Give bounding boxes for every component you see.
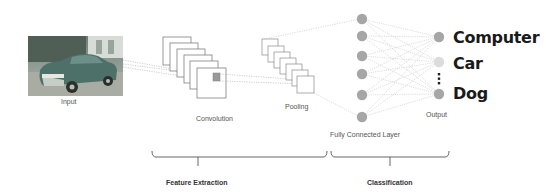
- fc-node: [357, 31, 367, 41]
- fc-node: [357, 90, 367, 100]
- pooling-label: Pooling: [285, 103, 308, 110]
- output-node-dog: [434, 89, 444, 99]
- feature-extraction-label: Feature Extraction: [166, 179, 227, 186]
- class-label-car: Car: [453, 54, 483, 73]
- fc-node: [357, 14, 367, 24]
- output-nodes: [434, 32, 444, 99]
- convolution-label: Convolution: [196, 115, 233, 122]
- input-label: Input: [61, 98, 77, 105]
- output-label: Output: [426, 111, 447, 118]
- output-node-computer: [434, 32, 444, 42]
- input-image: [28, 36, 123, 96]
- convolution-feature-maps: [163, 37, 226, 98]
- classification-label: Classification: [367, 179, 413, 186]
- class-label-dog: Dog: [453, 84, 488, 103]
- classification-bracket: [331, 151, 449, 166]
- fully-connected-label: Fully Connected Layer: [330, 131, 400, 138]
- conv-filter-patch: [213, 73, 220, 81]
- fc-to-output-connections: [362, 19, 439, 117]
- fc-node: [357, 112, 367, 122]
- output-node-car: [434, 57, 444, 67]
- fc-node: [357, 69, 367, 79]
- feature-extraction-bracket: [152, 151, 327, 166]
- ellipsis-dots-icon: [438, 73, 440, 84]
- pooling-feature-maps: [262, 39, 314, 93]
- fully-connected-nodes: [357, 14, 367, 122]
- fc-node: [357, 51, 367, 61]
- class-label-computer: Computer: [453, 28, 539, 47]
